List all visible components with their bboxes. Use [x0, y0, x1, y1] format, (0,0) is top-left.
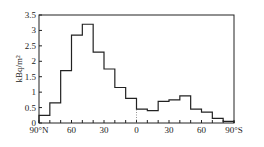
x-tick-label: 30: [165, 125, 175, 135]
y-tick-label: 1: [32, 87, 37, 97]
y-tick-label: 2: [32, 56, 37, 66]
x-tick-label: 90°S: [225, 125, 243, 135]
x-tick-label: 30: [100, 125, 110, 135]
x-tick-label: 90°N: [29, 125, 49, 135]
x-tick-label: 0: [134, 125, 139, 135]
y-tick-label: 1.5: [25, 72, 37, 82]
y-tick-label: 3: [32, 25, 37, 35]
y-tick-label: 3.5: [25, 10, 37, 20]
x-tick-label: 60: [67, 125, 77, 135]
histogram-steps: [39, 24, 234, 123]
deposition-chart: 00.511.522.533.590°N60300306090°SkBq/m²: [0, 0, 264, 147]
y-tick-label: 0.5: [25, 103, 37, 113]
y-axis-label: kBq/m²: [14, 55, 24, 83]
x-tick-label: 60: [197, 125, 207, 135]
y-tick-label: 2.5: [25, 41, 37, 51]
